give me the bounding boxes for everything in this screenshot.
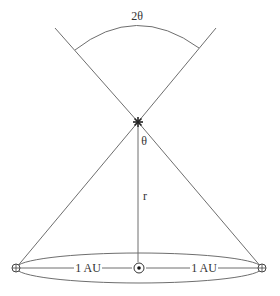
angle-half-label: θ: [141, 134, 147, 148]
lower-right-line: [138, 122, 262, 268]
earth-icon-right: [258, 264, 266, 272]
right-au-label: 1 AU: [191, 261, 217, 275]
upper-right-line: [138, 28, 216, 122]
upper-left-line: [55, 28, 138, 122]
angle-arc: [75, 25, 199, 50]
distance-label: r: [143, 189, 147, 203]
parallax-diagram: 2θ θ r 1 AU 1 AU: [0, 0, 280, 296]
angle-full-label: 2θ: [131, 9, 143, 23]
star-icon: [133, 117, 143, 127]
earth-icon-left: [12, 264, 20, 272]
lower-left-line: [16, 122, 138, 268]
sun-icon: [134, 263, 144, 273]
left-au-label: 1 AU: [75, 261, 101, 275]
